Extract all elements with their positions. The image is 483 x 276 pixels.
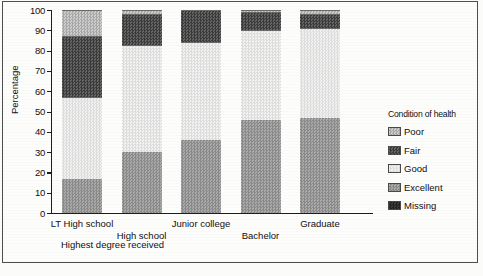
segment-excellent [122,152,162,213]
x-label-high-school: High school [97,230,187,241]
legend-item-excellent: Excellent [388,180,480,195]
segment-poor [300,10,340,14]
y-tick-label-100: 100 [19,6,45,15]
legend-swatch-fair [388,146,401,155]
y-tick-60 [47,91,51,92]
y-tick-20 [47,172,51,173]
y-tick-100 [47,10,51,11]
y-tick-label-0: 0 [19,209,45,218]
bar-high-school [122,11,162,213]
segment-excellent [241,120,281,213]
segment-poor [241,10,281,12]
legend-swatch-missing [388,201,401,210]
segment-excellent [300,118,340,213]
legend-item-fair: Fair [388,143,480,158]
legend-swatch-excellent [388,183,401,192]
segment-good [62,97,102,178]
legend-item-missing: Missing [388,198,480,213]
legend-label-poor: Poor [404,126,424,137]
y-tick-label-40: 40 [19,127,45,136]
segment-good [241,30,281,119]
legend-title: Condition of health [388,109,480,119]
legend-label-good: Good [404,163,427,174]
y-tick-30 [47,152,51,153]
legend-label-excellent: Excellent [404,182,443,193]
x-label-junior-college: Junior college [156,218,246,229]
y-tick-label-50: 50 [19,107,45,116]
bar-lt-high-school [62,11,102,213]
y-tick-label-60: 60 [19,87,45,96]
segment-fair [181,10,221,42]
segment-good [181,42,221,139]
y-tick-10 [47,193,51,194]
legend-swatch-poor [388,127,401,136]
y-tick-label-20: 20 [19,168,45,177]
bar-graduate [300,11,340,213]
chart-frame: 0102030405060708090100 Percentage Highes… [2,1,478,263]
x-label-bachelor: Bachelor [216,230,306,241]
segment-poor [122,10,162,14]
chart-page: 0102030405060708090100 Percentage Highes… [0,0,483,276]
legend-items: PoorFairGoodExcellentMissing [388,124,480,213]
legend-label-fair: Fair [404,145,420,156]
segment-fair [300,14,340,28]
x-label-graduate: Graduate [275,218,365,229]
legend-item-good: Good [388,161,480,176]
segment-fair [241,12,281,30]
y-tick-label-80: 80 [19,46,45,55]
legend: Condition of health PoorFairGoodExcellen… [388,109,480,217]
legend-swatch-good [388,164,401,173]
plot-area: 0102030405060708090100 [51,10,373,214]
y-tick-70 [47,71,51,72]
legend-label-missing: Missing [404,200,436,211]
segment-excellent [181,140,221,213]
x-label-lt-high-school: LT High school [37,218,127,229]
segment-excellent [62,179,102,214]
y-tick-40 [47,132,51,133]
segment-good [122,45,162,153]
y-tick-0 [47,213,51,214]
y-tick-label-70: 70 [19,66,45,75]
segment-poor [62,10,102,36]
y-tick-label-10: 10 [19,188,45,197]
legend-item-poor: Poor [388,124,480,139]
segment-fair [62,36,102,97]
segment-good [300,28,340,117]
bar-bachelor [241,11,281,213]
y-tick-label-30: 30 [19,148,45,157]
y-tick-50 [47,112,51,113]
y-axis-line [51,10,52,214]
y-tick-90 [47,30,51,31]
segment-fair [122,14,162,44]
bar-junior-college [181,11,221,213]
y-tick-80 [47,51,51,52]
x-axis-line [51,213,373,214]
y-tick-label-90: 90 [19,26,45,35]
y-axis-title: Percentage [9,65,20,114]
